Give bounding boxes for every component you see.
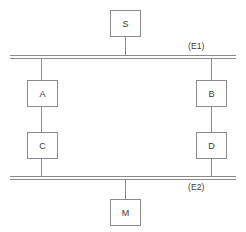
bus-e1-label: (E1) bbox=[188, 41, 204, 51]
node-c[interactable]: C bbox=[27, 132, 58, 159]
bus-e2-label: (E2) bbox=[188, 182, 204, 192]
link-e2-to-m bbox=[125, 178, 126, 200]
diagram-canvas: (E1) (E2) S A B C D M bbox=[0, 0, 246, 232]
node-a[interactable]: A bbox=[27, 80, 58, 107]
bus-e2 bbox=[10, 176, 236, 180]
node-s[interactable]: S bbox=[110, 10, 141, 37]
bus-e1-rail-top bbox=[10, 55, 236, 56]
node-m[interactable]: M bbox=[110, 199, 141, 226]
link-s-to-e1 bbox=[125, 37, 126, 56]
link-e1-to-a bbox=[41, 56, 42, 81]
link-a-to-c bbox=[41, 106, 42, 133]
node-b[interactable]: B bbox=[196, 80, 227, 107]
link-b-to-d bbox=[211, 106, 212, 133]
link-d-to-e2 bbox=[211, 158, 212, 178]
link-e1-to-b bbox=[211, 56, 212, 81]
bus-e1-rail-bottom bbox=[10, 58, 236, 59]
bus-e1 bbox=[10, 55, 236, 59]
link-c-to-e2 bbox=[41, 158, 42, 178]
bus-e2-rail-bottom bbox=[10, 179, 236, 180]
bus-e2-rail-top bbox=[10, 176, 236, 177]
node-d[interactable]: D bbox=[196, 132, 227, 159]
